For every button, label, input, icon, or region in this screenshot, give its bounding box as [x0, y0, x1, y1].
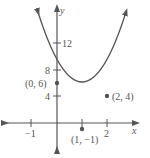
tick-label-4: 4 — [45, 91, 50, 102]
point-1-neg1 — [80, 127, 84, 131]
point-0-6 — [55, 81, 59, 85]
parabola-curve — [38, 12, 126, 82]
point-label-0-6: (0, 6) — [25, 78, 47, 90]
tick-label-neg1: −1 — [25, 128, 36, 139]
x-axis-label: x — [131, 125, 137, 136]
point-label-1-neg1: (1, −1) — [71, 134, 98, 146]
parabola-chart: y x −1 2 4 8 12 (0, 6) (1, −1) (2, 4) — [0, 0, 150, 158]
point-2-4 — [105, 94, 109, 98]
tick-label-8: 8 — [45, 65, 50, 76]
point-label-2-4: (2, 4) — [112, 91, 134, 103]
tick-label-12: 12 — [62, 38, 72, 49]
y-axis-label: y — [59, 5, 65, 16]
tick-label-2: 2 — [104, 128, 109, 139]
